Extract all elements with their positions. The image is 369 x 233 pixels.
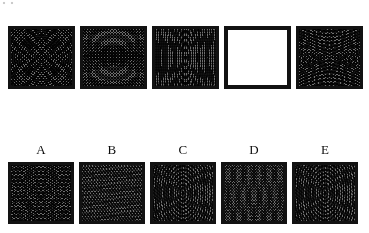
pattern-test-canvas: A B C bbox=[0, 0, 369, 233]
panel-texture bbox=[153, 165, 213, 221]
option-label-a: A bbox=[8, 142, 74, 157]
sequence-panel-2 bbox=[80, 26, 147, 89]
option-panel-d[interactable] bbox=[221, 162, 287, 224]
panel-texture bbox=[299, 29, 360, 86]
option-panel-b[interactable] bbox=[79, 162, 145, 224]
halftone-screen bbox=[299, 29, 360, 86]
halftone-screen bbox=[224, 165, 284, 221]
halftone-screen bbox=[155, 29, 216, 86]
sequence-panel-missing[interactable] bbox=[224, 26, 291, 89]
option-label-c: C bbox=[150, 142, 216, 157]
halftone-screen bbox=[11, 165, 71, 221]
problem-sequence-row bbox=[0, 26, 369, 94]
panel-texture bbox=[155, 29, 216, 86]
sequence-panel-1 bbox=[8, 26, 75, 89]
option-label-d: D bbox=[221, 142, 287, 157]
option-label-e: E bbox=[292, 142, 358, 157]
sequence-panel-5 bbox=[296, 26, 363, 89]
option-panel-c[interactable] bbox=[150, 162, 216, 224]
option-panel-a[interactable] bbox=[8, 162, 74, 224]
halftone-screen bbox=[295, 165, 355, 221]
halftone-screen bbox=[83, 29, 144, 86]
answer-options-row: A B C bbox=[0, 142, 369, 230]
panel-texture bbox=[11, 29, 72, 86]
panel-texture bbox=[82, 165, 142, 221]
panel-texture bbox=[295, 165, 355, 221]
option-panel-e[interactable] bbox=[292, 162, 358, 224]
panel-texture bbox=[83, 29, 144, 86]
panel-texture bbox=[224, 165, 284, 221]
halftone-screen bbox=[11, 29, 72, 86]
panel-empty-area bbox=[228, 30, 287, 85]
halftone-screen bbox=[153, 165, 213, 221]
panel-texture bbox=[11, 165, 71, 221]
sequence-panel-3 bbox=[152, 26, 219, 89]
option-label-b: B bbox=[79, 142, 145, 157]
halftone-screen bbox=[82, 165, 142, 221]
scan-artifact bbox=[2, 0, 16, 6]
